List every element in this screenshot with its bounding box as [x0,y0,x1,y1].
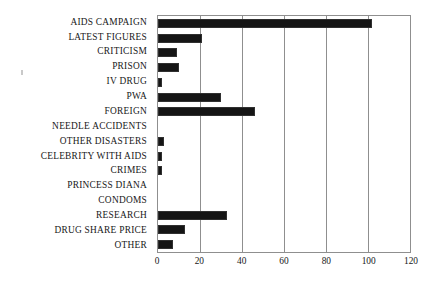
bar-row [158,31,410,46]
bar-row [158,75,410,90]
bars-layer [158,16,410,252]
bar [158,78,162,87]
category-label: FOREIGN [0,104,152,119]
bar-row [158,60,410,75]
bar [158,19,372,28]
plot-area [157,15,411,253]
category-label: OTHER [0,238,152,253]
x-tick-label: 20 [195,257,204,266]
category-label: LATEST FIGURES [0,30,152,45]
x-tick-label: 40 [237,257,246,266]
bar-row [158,119,410,134]
x-axis-tick-labels: 020406080100120 [157,253,411,275]
bar-row [158,178,410,193]
bar-row [158,134,410,149]
bar [158,93,221,102]
bar [158,137,164,146]
category-axis-labels: AIDS CAMPAIGNLATEST FIGURESCRITICISMPRIS… [0,15,152,253]
category-label: DRUG SHARE PRICE [0,223,152,238]
bar [158,48,177,57]
bar [158,107,255,116]
bar-row [158,164,410,179]
bar-row [158,46,410,61]
bar-row [158,149,410,164]
bar-row [158,208,410,223]
bar-row [158,193,410,208]
x-tick-label: 0 [155,257,160,266]
bar-chart: AIDS CAMPAIGNLATEST FIGURESCRITICISMPRIS… [0,0,438,289]
bar [158,225,185,234]
bar-row [158,105,410,120]
category-label: IV DRUG [0,75,152,90]
bar-row [158,90,410,105]
bar [158,166,162,175]
bar [158,63,179,72]
category-label: PRINCESS DIANA [0,179,152,194]
x-tick-label: 120 [404,257,418,266]
bar-row [158,16,410,31]
category-label: CELEBRITY WITH AIDS [0,149,152,164]
bar [158,240,173,249]
category-label: NEEDLE ACCIDENTS [0,119,152,134]
category-label: PRISON [0,60,152,75]
category-label: AIDS CAMPAIGN [0,15,152,30]
category-label: RESEARCH [0,208,152,223]
bar-row [158,223,410,238]
bar-row [158,237,410,252]
category-label: OTHER DISASTERS [0,134,152,149]
x-tick-label: 80 [322,257,331,266]
category-label: CRIMES [0,164,152,179]
category-label: CONDOMS [0,194,152,209]
bar [158,152,162,161]
category-label: CRITICISM [0,45,152,60]
bar [158,34,202,43]
category-label: PWA [0,89,152,104]
x-tick-label: 60 [279,257,288,266]
x-tick-label: 100 [362,257,376,266]
bar [158,211,227,220]
